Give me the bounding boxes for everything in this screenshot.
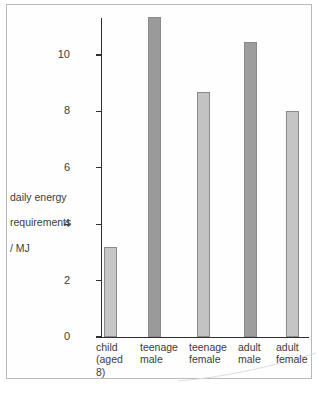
bar-adult-female[interactable] <box>286 111 299 337</box>
x-category-label-teenage-male: teenage male <box>140 341 188 366</box>
y-axis-title-line2: requirements <box>10 216 94 229</box>
bar-teenage-male[interactable] <box>148 17 161 337</box>
bar-child[interactable] <box>104 247 117 337</box>
x-category-label-teenage-female: teenage female <box>189 341 237 366</box>
x-category-label-child: child (aged 8) <box>96 341 138 378</box>
x-axis-line <box>96 337 309 338</box>
figure: 0 2 4 6 8 10 child <box>0 0 319 398</box>
bars-layer <box>0 0 319 337</box>
x-category-label-adult-female: adult female <box>276 341 318 366</box>
x-category-label-adult-male: adult male <box>238 341 276 366</box>
y-axis-title-line3: / MJ <box>10 242 94 255</box>
y-axis-title-line1: daily energy <box>10 191 94 204</box>
bar-adult-male[interactable] <box>244 42 257 337</box>
y-axis-title: daily energy requirements / MJ <box>10 178 94 268</box>
bar-teenage-female[interactable] <box>197 92 210 337</box>
plot-area: 0 2 4 6 8 10 child <box>0 0 319 398</box>
